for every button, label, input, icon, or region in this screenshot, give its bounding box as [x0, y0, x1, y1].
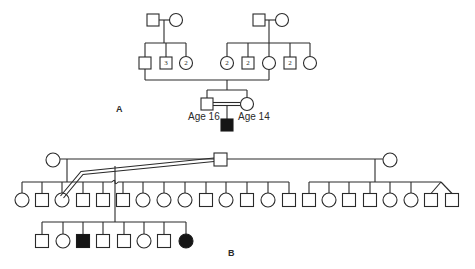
a-right-child-5-female: [304, 57, 317, 70]
b-gen3-affected-daughter: [179, 234, 193, 248]
a-right-child-3-female: [263, 57, 276, 70]
panel-b-label: B: [228, 248, 235, 258]
b-gen1-husband: [214, 153, 227, 166]
a-father-age-16: [201, 98, 213, 110]
a-left-child-3-count: 2: [184, 59, 188, 67]
b-consanguinity-line-lower: [64, 162, 215, 199]
a-proband-affected-son: [221, 119, 233, 131]
pedigree-figure: 3 2 2 2 2 Age 16: [0, 0, 475, 269]
a-right-child-4-count: 2: [288, 59, 292, 67]
a-right-child-1-count: 2: [225, 59, 229, 67]
panel-a: 3 2 2 2 2 Age 16: [116, 14, 317, 132]
a-right-grandmother: [276, 14, 289, 27]
a-right-child-2-count: 2: [246, 59, 250, 67]
b-gen3-affected-son: [77, 235, 90, 248]
panel-a-label: A: [116, 104, 123, 114]
panel-b: B: [15, 153, 459, 258]
pedigree-svg: 3 2 2 2 2 Age 16: [0, 0, 475, 269]
a-left-grandfather: [147, 14, 159, 26]
a-left-grandmother: [170, 14, 183, 27]
a-mother-age-14: [241, 98, 254, 111]
b-gen2-right-sibship: [303, 182, 459, 207]
a-father-age-label: Age 16: [188, 111, 220, 122]
b-twin-male-2: [446, 194, 459, 207]
b-twin-line-2: [441, 182, 452, 194]
b-gen2-consanguineous-wife: [55, 193, 69, 207]
b-twin-line-1: [431, 182, 441, 194]
b-gen1-first-wife: [46, 153, 60, 167]
a-right-grandfather: [253, 14, 265, 26]
b-twin-male-1: [425, 194, 438, 207]
a-left-child-2-count: 3: [164, 59, 168, 67]
b-gen3-sibship: [36, 222, 194, 248]
b-gen1-second-wife: [383, 153, 397, 167]
a-left-child-1-male: [139, 57, 151, 69]
a-mother-age-label: Age 14: [238, 111, 270, 122]
b-gen2-left-sibship: [15, 182, 296, 207]
